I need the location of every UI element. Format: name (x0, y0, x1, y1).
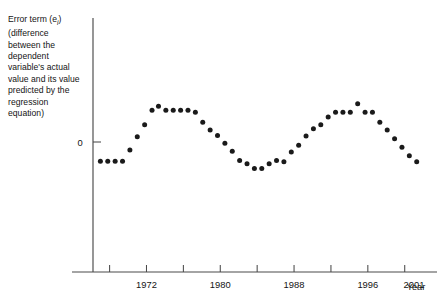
data-point (245, 161, 250, 166)
y-axis-zero-label: 0 (77, 137, 82, 148)
data-point (171, 108, 176, 113)
data-point (120, 159, 125, 164)
data-point (215, 133, 220, 138)
data-point (399, 145, 404, 150)
data-point (318, 122, 323, 127)
residual-plot-figure: Error term (ei) (difference between the … (0, 0, 445, 306)
data-point (98, 159, 103, 164)
data-point (326, 114, 331, 119)
data-point (274, 158, 279, 163)
axes-group: 0 (72, 18, 437, 272)
data-point (150, 108, 155, 113)
data-point (259, 166, 264, 171)
data-point (333, 110, 338, 115)
data-point (105, 159, 110, 164)
data-point (296, 143, 301, 148)
data-point (222, 141, 227, 146)
data-point (370, 110, 375, 115)
data-point (311, 126, 316, 131)
data-point (127, 147, 132, 152)
data-point (340, 110, 345, 115)
data-point (363, 110, 368, 115)
data-point (348, 110, 353, 115)
x-axis-title: Year (407, 282, 425, 292)
data-point (355, 101, 360, 106)
data-point (377, 120, 382, 125)
data-point (178, 108, 183, 113)
data-point (392, 136, 397, 141)
data-point (142, 122, 147, 127)
data-point (407, 153, 412, 158)
x-axis-tick-label: 1972 (136, 279, 157, 290)
data-point (237, 158, 242, 163)
data-point (289, 149, 294, 154)
data-point (267, 161, 272, 166)
data-point (163, 108, 168, 113)
data-point (208, 128, 213, 133)
x-axis-ticks (110, 265, 405, 272)
x-axis-tick-labels: 19721980198819962001 (136, 279, 424, 290)
data-point (230, 149, 235, 154)
data-point (304, 134, 309, 139)
data-point (113, 159, 118, 164)
data-point (185, 108, 190, 113)
x-axis-tick-label: 1988 (284, 279, 305, 290)
data-points-group (98, 101, 419, 171)
data-point (414, 159, 419, 164)
x-axis-tick-label: 1996 (357, 279, 378, 290)
data-point (156, 104, 161, 109)
data-point (135, 134, 140, 139)
chart-canvas: 0 19721980198819962001 Year (0, 0, 445, 306)
data-point (193, 110, 198, 115)
data-point (281, 159, 286, 164)
data-point (385, 128, 390, 133)
data-point (200, 120, 205, 125)
x-axis-tick-label: 1980 (210, 279, 231, 290)
data-point (252, 166, 257, 171)
